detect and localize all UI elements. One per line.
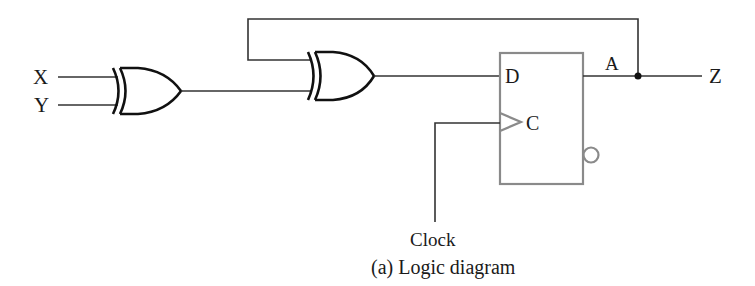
wire-feedback-a (248, 19, 638, 76)
logic-diagram: X Y D C A Z Clock (a) Logic diagram (0, 0, 755, 286)
label-clock: Clock (410, 229, 456, 250)
inverted-output-bubble (584, 148, 599, 163)
label-d: D (505, 65, 519, 87)
wire-clock (435, 123, 500, 222)
label-a: A (605, 53, 619, 74)
xor-gate-1 (113, 68, 181, 114)
label-z: Z (709, 64, 722, 88)
label-x: X (33, 65, 48, 89)
xor-gate-2 (308, 52, 374, 100)
caption: (a) Logic diagram (371, 256, 516, 279)
label-c: C (526, 112, 539, 134)
label-y: Y (34, 93, 49, 117)
junction-dot (635, 73, 642, 80)
clock-edge-icon (500, 113, 521, 131)
